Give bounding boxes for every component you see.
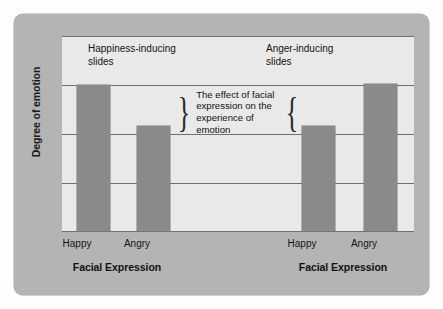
chart-card: Degree of emotion Happiness-inducing sli… [14,14,429,295]
tick-label-left-happy: Happy [47,238,107,249]
bar-left-happy [77,85,110,231]
left-brace-icon: } [178,91,191,133]
gridline-3 [62,183,414,184]
gridline-baseline [62,231,414,232]
panel-label-anger: Anger-inducing slides [266,43,333,68]
right-brace-icon: { [286,91,299,133]
annotation-text: The effect of facial expression on the e… [194,89,282,135]
tick-label-left-angry: Angry [107,238,167,249]
tick-label-right-happy: Happy [272,238,332,249]
x-axis-title-right: Facial Expression [273,261,413,273]
plot-area: Happiness-inducing slides Anger-inducing… [62,36,414,232]
tick-label-right-angry: Angry [334,238,394,249]
bar-right-angry [364,84,397,231]
bar-left-angry [137,126,170,231]
panel-label-happiness: Happiness-inducing slides [88,43,176,68]
bar-right-happy [302,126,335,231]
gridline-top [62,36,414,37]
y-axis-title: Degree of emotion [30,46,42,178]
figure-canvas: Degree of emotion Happiness-inducing sli… [0,0,443,309]
x-axis-title-left: Facial Expression [47,261,187,273]
center-annotation: } The effect of facial expression on the… [174,84,302,140]
